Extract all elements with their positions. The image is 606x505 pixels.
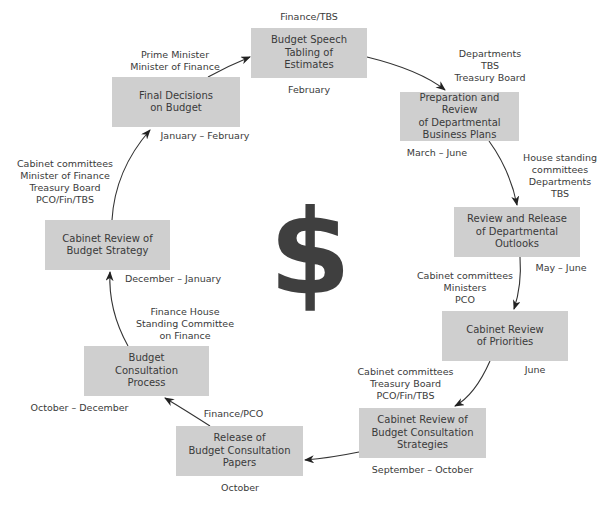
stage-prep-review-plans: Preparation and Review of Departmental B… [400,92,519,141]
stage-budget-speech: Budget Speech Tabling of Estimates [251,28,367,78]
timing-prep-review-plans: March – June [392,147,482,159]
stage-cabinet-review-priorities: Cabinet Review of Priorities [442,311,568,361]
actors-budget-speech: Finance/TBS [250,11,368,23]
arrow-strategies-to-papers [305,452,359,460]
stage-cabinet-review-budget-strategy: Cabinet Review of Budget Strategy [45,220,170,270]
actors-final-decisions: Prime Minister Minister of Finance [110,49,240,73]
actors-release-consultation-papers: Finance/PCO [196,408,271,420]
timing-cabinet-review-budget-strategy: December – January [118,273,228,285]
arrow-prep-to-outlooks [489,141,517,205]
actors-cabinet-review-priorities: Cabinet committees Ministers PCO [410,270,520,306]
stage-budget-consultation-process: Budget Consultation Process [84,346,209,396]
stage-release-consultation-papers: Release of Budget Consultation Papers [176,426,303,476]
timing-budget-consultation-process: October – December [22,402,137,414]
timing-final-decisions: January – February [150,130,260,142]
timing-budget-speech: February [250,84,368,96]
stage-review-release-outlooks: Review and Release of Departmental Outlo… [454,207,580,257]
timing-release-consultation-papers: October [210,482,270,494]
timing-review-release-outlooks: May – June [526,262,596,274]
actors-review-release-outlooks: House standing committees Departments TB… [515,152,605,200]
stage-cabinet-review-consultation-strategies: Cabinet Review of Budget Consultation St… [359,408,486,458]
actors-budget-consultation-process: Finance House Standing Committee on Fina… [125,306,245,342]
dollar-sign-icon: $ [255,188,365,318]
timing-cabinet-review-priorities: June [515,364,555,376]
stage-final-decisions: Final Decisions on Budget [112,77,240,127]
timing-cabinet-review-consultation-strategies: September – October [360,464,485,476]
actors-cabinet-review-consultation-strategies: Cabinet committees Treasury Board PCO/Fi… [348,366,463,402]
actors-prep-review-plans: Departments TBS Treasury Board [430,48,550,84]
actors-cabinet-review-budget-strategy: Cabinet committees Minister of Finance T… [10,158,120,206]
